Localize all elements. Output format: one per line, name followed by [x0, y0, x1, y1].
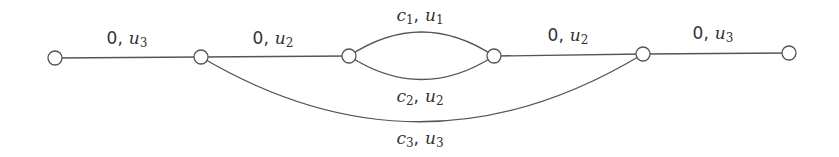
edge-cost: 0: [107, 28, 118, 48]
node-6: [782, 46, 796, 60]
edge-label-n1-n2: 0,u3: [107, 30, 148, 47]
edge-label-n3-n4-upper: c1,u1: [396, 7, 443, 24]
capacity-subscript: 2: [286, 36, 294, 50]
edge-label-n3-n4-lower: c2,u2: [396, 88, 443, 105]
capacity-subscript: 3: [726, 31, 734, 45]
edge-label-n4-n5: 0,u2: [548, 27, 589, 44]
label-separator: ,: [414, 86, 419, 106]
edge-n5-n6: [643, 53, 789, 54]
capacity-subscript: 1: [436, 13, 444, 27]
node-4: [487, 49, 501, 63]
node-2: [194, 50, 208, 64]
capacity-subscript: 3: [140, 36, 148, 50]
edge-cost: 0: [253, 28, 264, 48]
node-5: [636, 47, 650, 61]
edge-n3-n4-upper: [349, 32, 494, 56]
label-separator: ,: [703, 23, 708, 43]
node-1: [48, 51, 62, 65]
edge-cost: 0: [548, 25, 559, 45]
capacity-variable: u: [425, 128, 436, 148]
edge-cost: 0: [693, 23, 704, 43]
label-separator: ,: [263, 28, 268, 48]
edge-n3-n4-lower: [349, 56, 494, 80]
cost-variable: c: [396, 5, 406, 25]
capacity-variable: u: [275, 28, 286, 48]
capacity-variable: u: [425, 5, 436, 25]
node-3: [342, 49, 356, 63]
cost-variable: c: [396, 128, 406, 148]
label-separator: ,: [414, 5, 419, 25]
network-flow-diagram: 0,u3 0,u2 c1,u1 c2,u2 0,u2 0,u3 c3,u3: [0, 0, 839, 157]
label-separator: ,: [414, 128, 419, 148]
label-separator: ,: [558, 25, 563, 45]
capacity-variable: u: [129, 28, 140, 48]
edge-n1-n2: [55, 57, 201, 58]
edge-n2-n3: [201, 56, 349, 57]
capacity-subscript: 3: [436, 136, 444, 150]
edge-label-n5-n6: 0,u3: [693, 25, 734, 42]
capacity-variable: u: [570, 25, 581, 45]
label-separator: ,: [117, 28, 122, 48]
capacity-variable: u: [715, 23, 726, 43]
edge-label-n2-n3: 0,u2: [253, 30, 294, 47]
cost-variable: c: [396, 86, 406, 106]
capacity-subscript: 2: [581, 33, 589, 47]
capacity-subscript: 2: [436, 94, 444, 108]
capacity-variable: u: [425, 86, 436, 106]
edge-n4-n5: [494, 54, 643, 56]
edge-label-n2-n5-bypass: c3,u3: [396, 130, 443, 147]
